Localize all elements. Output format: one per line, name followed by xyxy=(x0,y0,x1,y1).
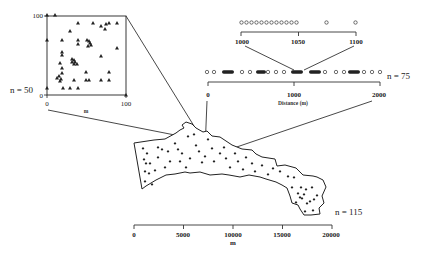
transect-n-label: n = 75 xyxy=(387,71,411,81)
inset-x-tick-0: 0 xyxy=(45,100,49,108)
zoom-tick-1100: 1100 xyxy=(349,38,363,46)
transect-tick-0: 0 xyxy=(206,91,210,99)
sampling-design-figure: 100 0 0 100 m n = 50 xyxy=(0,0,421,257)
transect-axis-label: Distance (m) xyxy=(278,100,308,107)
inset-x-unit: m xyxy=(84,108,89,114)
transect-tick-1000: 1000 xyxy=(287,91,302,99)
map-tick-20000: 20000 xyxy=(322,231,340,239)
map-tick-10000: 10000 xyxy=(224,231,242,239)
triangle-markers xyxy=(45,13,128,96)
zoom-tick-1050: 1050 xyxy=(291,38,306,46)
circle-markers xyxy=(240,21,357,24)
inset-x-tick-100: 100 xyxy=(121,100,132,108)
zoomed-transect: 1000 1050 1100 xyxy=(235,21,363,46)
line-transect: 0 1000 2000 Distance (m) n = 75 xyxy=(205,70,410,107)
zoom-tick-1000: 1000 xyxy=(235,38,250,46)
inset-y-tick-0: 0 xyxy=(40,92,44,100)
map-n-label: n = 115 xyxy=(335,207,363,217)
map-tick-0: 0 xyxy=(132,231,136,239)
inset-square-plot: 100 0 0 100 m n = 50 xyxy=(10,12,132,114)
connector-lines xyxy=(48,16,372,152)
map-tick-5000: 5000 xyxy=(176,231,191,239)
transect-tick-2000: 2000 xyxy=(372,91,387,99)
map-tick-15000: 15000 xyxy=(273,231,291,239)
inset-y-tick-100: 100 xyxy=(33,12,44,20)
inset-n-label: n = 50 xyxy=(10,85,34,95)
region-map: 0 5000 10000 15000 20000 m n = 115 xyxy=(132,122,362,247)
map-axis-label: m xyxy=(230,239,236,247)
